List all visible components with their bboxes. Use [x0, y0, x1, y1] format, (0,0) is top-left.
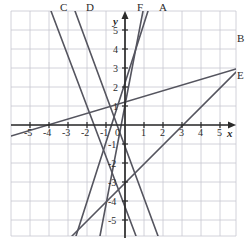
y-tick-label-5: 5 [113, 26, 118, 36]
line-c [51, 11, 136, 236]
x-tick-label-5: 5 [217, 128, 222, 138]
line-label-a: A [159, 2, 167, 13]
x-tick-label-2: 2 [160, 128, 165, 138]
coordinate-plane [0, 0, 247, 247]
line-label-b: B [237, 33, 244, 44]
line-label-c: C [60, 2, 67, 13]
y-axis-arrow [122, 11, 129, 19]
x-tick-label-3: 3 [179, 128, 184, 138]
y-tick-label-neg4: -4 [108, 197, 116, 207]
x-tick-label-neg3: -3 [62, 128, 70, 138]
line-label-e: E [237, 70, 244, 81]
x-tick-label-neg2: -2 [81, 128, 89, 138]
graph-figure: C D F A B E y x -5 -4 -3 -2 -1 0 1 2 3 4… [0, 0, 247, 247]
origin-label: 0 [115, 128, 120, 138]
x-tick-label-neg1: -1 [100, 128, 108, 138]
plotted-lines [11, 11, 236, 236]
y-tick-label-1: 1 [113, 102, 118, 112]
y-tick-label-neg1: -1 [108, 140, 116, 150]
line-e [72, 72, 236, 236]
x-axis-label: x [227, 128, 233, 139]
line-b [11, 69, 236, 136]
line-label-d: D [86, 2, 94, 13]
line-label-f: F [137, 2, 143, 13]
y-tick-label-neg3: -3 [108, 178, 116, 188]
y-tick-label-4: 4 [113, 45, 118, 55]
x-tick-label-1: 1 [141, 128, 146, 138]
x-tick-label-4: 4 [198, 128, 203, 138]
y-tick-label-neg5: -5 [108, 216, 116, 226]
y-tick-label-2: 2 [113, 83, 118, 93]
x-tick-label-neg5: -5 [24, 128, 32, 138]
y-tick-label-3: 3 [113, 64, 118, 74]
x-tick-label-neg4: -4 [43, 128, 51, 138]
y-tick-label-neg2: -2 [108, 159, 116, 169]
